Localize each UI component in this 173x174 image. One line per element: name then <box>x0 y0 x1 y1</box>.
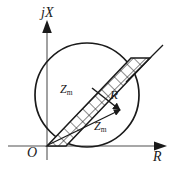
zm-lower-subscript: m <box>101 125 107 134</box>
vertical-axis-arrowhead <box>42 20 52 33</box>
horizontal-axis-label: R <box>153 150 162 164</box>
zm-lower-base: Z <box>94 119 101 133</box>
impedance-plane-figure: jX R O Zm Zm R <box>0 0 173 174</box>
vertical-axis-label: jX <box>41 6 53 20</box>
zm-upper-label: Zm <box>60 83 72 97</box>
hatched-band <box>0 0 173 174</box>
zm-upper-subscript: m <box>67 88 73 97</box>
zm-lower-label: Zm <box>94 120 106 134</box>
origin-label: O <box>27 146 37 160</box>
characteristic-circle <box>35 43 139 147</box>
zm-upper-base: Z <box>60 82 67 96</box>
diagram-canvas <box>0 0 173 174</box>
axis-group <box>8 20 167 160</box>
r-vector-label: R <box>110 88 118 101</box>
